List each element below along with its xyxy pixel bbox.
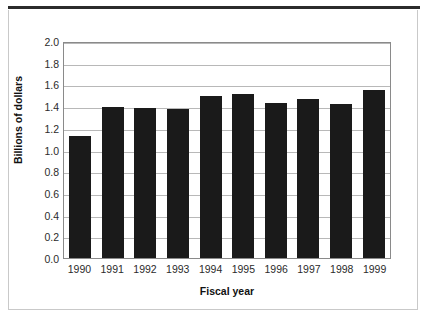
chart-figure: Billions of dollars 2.01.81.61.41.21.00.… (0, 0, 426, 319)
bar (102, 107, 124, 258)
y-axis-tick-label: 0.6 (26, 188, 59, 200)
x-axis-tick-label: 1990 (63, 263, 95, 275)
x-axis-tick-label: 1992 (129, 263, 161, 275)
x-axis-tick-label: 1995 (227, 263, 259, 275)
bar (200, 96, 222, 258)
bar (167, 109, 189, 258)
y-axis-tick-label: 1.8 (26, 58, 59, 70)
bar-series (64, 43, 390, 258)
x-axis-title: Fiscal year (63, 285, 391, 297)
x-axis-tick-label: 1993 (162, 263, 194, 275)
x-axis-tick-labels: 1990199119921993199419951996199719981999 (63, 263, 391, 277)
bar (232, 94, 254, 258)
y-axis-tick-label: 2.0 (26, 36, 59, 48)
y-axis-tick-label: 0.8 (26, 166, 59, 178)
top-divider-rule (8, 6, 420, 9)
y-axis-tick-label: 1.0 (26, 145, 59, 157)
y-axis-tick-labels: 2.01.81.61.41.21.00.80.60.40.20.0 (26, 42, 59, 259)
plot-area (63, 42, 391, 259)
bar (69, 136, 91, 258)
y-axis-tick-label: 0.4 (26, 210, 59, 222)
y-axis-tick-label: 1.6 (26, 79, 59, 91)
bar (363, 90, 385, 258)
x-axis-tick-label: 1998 (326, 263, 358, 275)
bar (134, 108, 156, 258)
x-axis-tick-label: 1997 (293, 263, 325, 275)
y-axis-tick-label: 1.4 (26, 101, 59, 113)
y-axis-tick-label: 0.2 (26, 231, 59, 243)
x-axis-tick-label: 1996 (260, 263, 292, 275)
y-axis-tick-label: 0.0 (26, 253, 59, 265)
bar (330, 104, 352, 258)
x-axis-tick-label: 1994 (195, 263, 227, 275)
y-axis-tick-label: 1.2 (26, 123, 59, 135)
bar (297, 99, 319, 258)
y-axis-title: Billions of dollars (12, 40, 24, 200)
bar (265, 103, 287, 258)
x-axis-tick-label: 1999 (359, 263, 391, 275)
x-axis-tick-label: 1991 (96, 263, 128, 275)
